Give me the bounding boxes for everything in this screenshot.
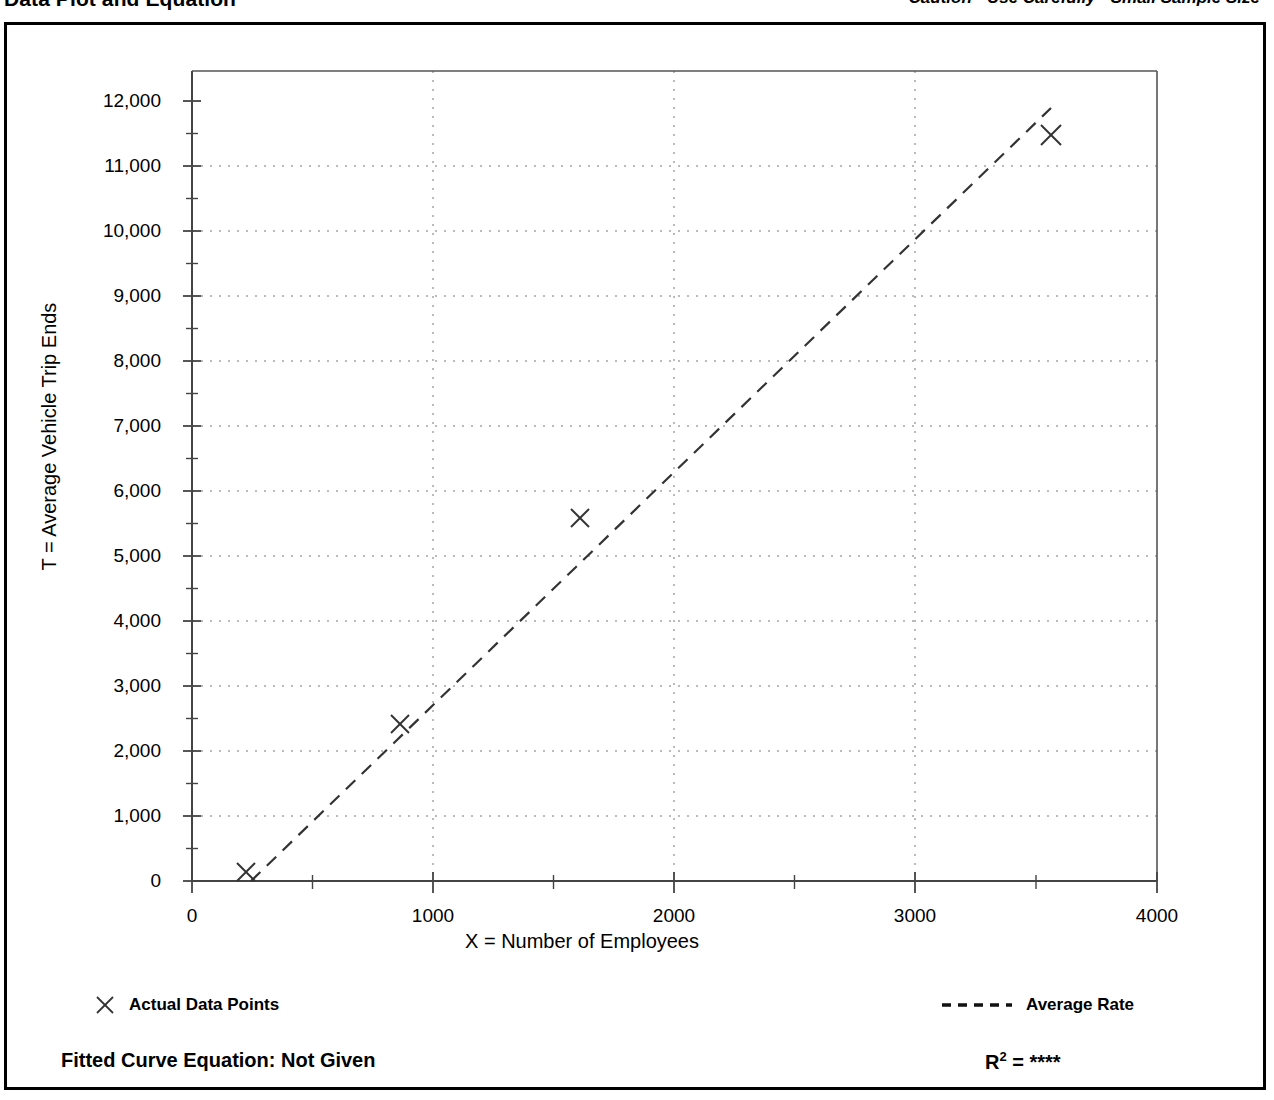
y-tick-label: 5,000: [71, 545, 161, 567]
horizontal-gridlines: [192, 166, 1157, 816]
x-tick-label: 1000: [388, 905, 478, 927]
average-rate-line: [251, 108, 1051, 881]
x-marker-icon: [95, 995, 115, 1015]
r-squared-label: R: [985, 1051, 999, 1073]
legend-item-average-rate: Average Rate: [942, 995, 1134, 1015]
x-tick-label: 0: [147, 905, 237, 927]
x-tick-label: 2000: [629, 905, 719, 927]
x-tick-label: 3000: [870, 905, 960, 927]
data-point-marker: [571, 509, 589, 527]
legend-label: Average Rate: [1026, 995, 1134, 1015]
y-tick-label: 10,000: [71, 220, 161, 242]
chart-frame: 0 1,000 2,000 3,000 4,000 5,000 6,000 7,…: [4, 22, 1266, 1090]
y-tick-label: 11,000: [71, 155, 161, 177]
page-header: Data Plot and Equation Caution - Use Car…: [0, 0, 1274, 20]
y-tick-label: 12,000: [71, 90, 161, 112]
y-tick-label: 3,000: [71, 675, 161, 697]
x-axis-title: X = Number of Employees: [7, 930, 1157, 953]
y-axis-title: T = Average Vehicle Trip Ends: [38, 227, 61, 647]
vertical-gridlines: [433, 71, 915, 881]
dashed-line-icon: [942, 1000, 1012, 1010]
y-tick-label: 1,000: [71, 805, 161, 827]
legend-label: Actual Data Points: [129, 995, 279, 1015]
data-point-marker: [391, 715, 409, 733]
r-squared-exponent: 2: [999, 1049, 1006, 1064]
x-major-ticks: [192, 872, 1157, 893]
y-tick-label: 0: [71, 870, 161, 892]
x-tick-label: 4000: [1112, 905, 1202, 927]
y-tick-label: 7,000: [71, 415, 161, 437]
y-tick-label: 4,000: [71, 610, 161, 632]
y-tick-label: 6,000: [71, 480, 161, 502]
y-tick-label: 2,000: [71, 740, 161, 762]
r-squared-equals: =: [1007, 1051, 1030, 1073]
legend-item-actual-data-points: Actual Data Points: [95, 995, 279, 1015]
data-point-markers: [237, 125, 1061, 881]
r-squared-stars: ****: [1029, 1051, 1060, 1073]
y-tick-label: 8,000: [71, 350, 161, 372]
page-title: Data Plot and Equation: [4, 0, 236, 11]
data-point-marker: [1041, 125, 1061, 145]
caution-note: Caution - Use Carefully - Small Sample S…: [909, 0, 1260, 8]
r-squared-value: R2 = ****: [985, 1049, 1061, 1074]
fitted-curve-equation: Fitted Curve Equation: Not Given: [61, 1049, 375, 1072]
data-point-marker: [237, 863, 255, 881]
y-tick-label: 9,000: [71, 285, 161, 307]
plot-area: 0 1,000 2,000 3,000 4,000 5,000 6,000 7,…: [7, 25, 1269, 1093]
